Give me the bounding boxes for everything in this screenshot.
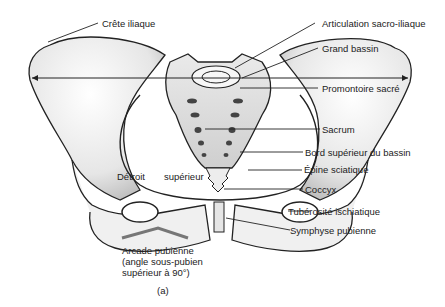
- label-sacrum: Sacrum: [322, 124, 355, 135]
- label-angle-sous-pubien: (angle sous-pubien: [122, 256, 203, 267]
- coccyx: [206, 168, 230, 192]
- label-tuberosite-ischiatique: Tubérosité ischiatique: [288, 206, 380, 217]
- label-grand-bassin: Grand bassin: [322, 43, 379, 54]
- figure-caption: (a): [157, 285, 169, 296]
- label-coccyx: Coccyx: [305, 184, 336, 195]
- label-symphyse-pubienne: Symphyse pubienne: [290, 225, 376, 236]
- pelvis-diagram: Crête iliaque Articulation sacro-iliaque…: [0, 0, 445, 307]
- right-ilium: [280, 39, 411, 200]
- pubic-symphysis: [214, 202, 224, 232]
- label-epine-sciatique: Épine sciatique: [304, 164, 368, 175]
- label-crete-iliaque: Crête iliaque: [102, 18, 155, 29]
- left-obturator-foramen: [122, 202, 158, 222]
- label-promontoire-sacre: Promontoire sacré: [322, 83, 400, 94]
- label-arcade-pubienne: Arcade pubienne: [122, 245, 194, 256]
- label-detroit: Détroit: [117, 171, 145, 182]
- label-articulation-sacro-iliaque: Articulation sacro-iliaque: [322, 18, 426, 29]
- label-superieur-90: supérieur à 90°): [122, 267, 190, 278]
- label-superieur: supérieur: [164, 171, 204, 182]
- label-bord-superieur: Bord supérieur du bassin: [305, 147, 411, 158]
- promontory-disc: [192, 66, 240, 88]
